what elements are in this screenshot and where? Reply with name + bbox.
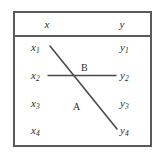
node-sub-x2: 2 bbox=[36, 74, 40, 83]
node-sub-x1: 1 bbox=[36, 46, 40, 55]
node-label-y4: y4 bbox=[120, 124, 129, 140]
node-label-y3: y3 bbox=[120, 97, 129, 113]
figure-page: x y x1 x2 x3 x4 y1 y2 y3 y4 B A bbox=[0, 0, 164, 159]
node-sub-y2: 2 bbox=[125, 74, 129, 83]
node-label-x3: x3 bbox=[31, 97, 40, 113]
header-divider-rule bbox=[13, 35, 152, 37]
node-sub-y4: 4 bbox=[125, 129, 129, 138]
node-label-x2: x2 bbox=[31, 69, 40, 85]
node-sub-y1: 1 bbox=[125, 46, 129, 55]
node-sub-y3: 3 bbox=[125, 102, 129, 111]
node-sub-x4: 4 bbox=[36, 129, 40, 138]
column-header-y: y bbox=[112, 17, 132, 31]
column-header-x: x bbox=[37, 17, 57, 31]
node-sub-x3: 3 bbox=[36, 102, 40, 111]
edge-label-B: B bbox=[81, 62, 88, 73]
node-label-x4: x4 bbox=[31, 124, 40, 140]
node-label-y1: y1 bbox=[120, 41, 129, 57]
node-label-x1: x1 bbox=[31, 41, 40, 57]
node-label-y2: y2 bbox=[120, 69, 129, 85]
edge-label-A: A bbox=[73, 101, 80, 112]
